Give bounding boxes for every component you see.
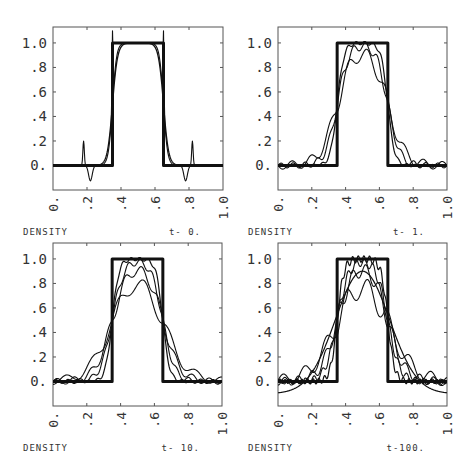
y-tick-label: .2 bbox=[30, 349, 47, 365]
curve-solution-a bbox=[53, 257, 222, 382]
x-tick-label: 0. bbox=[46, 412, 61, 428]
y-tick-label: .8 bbox=[30, 275, 47, 291]
curve-exact bbox=[53, 43, 223, 166]
x-tick-label: .2 bbox=[80, 196, 95, 212]
x-tick-label: .8 bbox=[181, 412, 196, 428]
y-tick-label: .8 bbox=[255, 275, 272, 291]
curve-exact bbox=[53, 259, 222, 382]
x-tick-label: 1.0 bbox=[440, 412, 455, 435]
curve-solution-b bbox=[278, 43, 447, 168]
x-tick-label: .2 bbox=[80, 412, 95, 428]
curve-solution-a bbox=[53, 43, 223, 166]
y-tick-label: .4 bbox=[255, 108, 272, 124]
panel-t1: 0..2.4.6.81.00..2.4.6.81.0DENSITYt- 1. bbox=[247, 27, 455, 237]
time-label: t- 10. bbox=[161, 443, 200, 453]
y-tick-label: 0. bbox=[255, 373, 272, 389]
y-tick-label: 1.0 bbox=[22, 251, 47, 267]
chart-figure: 0..2.4.6.81.00..2.4.6.81.0DENSITYt- 0. 0… bbox=[0, 0, 476, 462]
curve-solution-a bbox=[278, 256, 447, 384]
time-label: t-100. bbox=[386, 443, 425, 453]
x-tick-label: 0. bbox=[271, 412, 286, 428]
x-tick-label: .6 bbox=[148, 196, 163, 212]
y-tick-label: 0. bbox=[255, 157, 272, 173]
y-tick-label: .4 bbox=[30, 324, 47, 340]
x-axis-label: DENSITY bbox=[248, 227, 293, 237]
x-tick-label: .6 bbox=[372, 196, 387, 212]
y-tick-label: 1.0 bbox=[22, 35, 47, 51]
time-label: t- 1. bbox=[393, 227, 425, 237]
x-tick-label: .2 bbox=[305, 196, 320, 212]
x-tick-label: .4 bbox=[339, 412, 354, 428]
y-tick-label: .2 bbox=[255, 349, 272, 365]
y-tick-label: 0. bbox=[30, 157, 47, 173]
curve-solution-c bbox=[278, 49, 447, 169]
x-tick-label: .6 bbox=[147, 412, 162, 428]
x-tick-label: 1.0 bbox=[440, 196, 455, 219]
time-label: t- 0. bbox=[169, 227, 201, 237]
curve-exact bbox=[278, 43, 447, 166]
curve-solution-d bbox=[53, 280, 222, 384]
x-tick-label: 0. bbox=[46, 196, 61, 212]
y-tick-label: .6 bbox=[255, 84, 272, 100]
y-tick-label: .6 bbox=[255, 300, 272, 316]
x-tick-label: 1.0 bbox=[215, 412, 230, 435]
curve-solution-b bbox=[278, 258, 447, 384]
x-tick-label: .8 bbox=[182, 196, 197, 212]
curve-solution-d bbox=[278, 280, 447, 386]
x-tick-label: .4 bbox=[114, 196, 129, 212]
panel-t100: 0..2.4.6.81.00..2.4.6.81.0DENSITYt-100. bbox=[247, 243, 455, 453]
x-axis-label: DENSITY bbox=[23, 227, 68, 237]
y-tick-label: 0. bbox=[30, 373, 47, 389]
x-tick-label: .8 bbox=[406, 412, 421, 428]
y-tick-label: .6 bbox=[30, 84, 47, 100]
y-tick-label: .2 bbox=[30, 133, 47, 149]
x-tick-label: 0. bbox=[271, 196, 286, 212]
curve-solution-b bbox=[53, 31, 223, 181]
x-tick-label: .8 bbox=[406, 196, 421, 212]
panel-t10: 0..2.4.6.81.00..2.4.6.81.0DENSITYt- 10. bbox=[22, 243, 230, 453]
curve-exact bbox=[278, 259, 447, 382]
y-tick-label: 1.0 bbox=[247, 35, 272, 51]
y-tick-label: .8 bbox=[30, 59, 47, 75]
x-tick-label: 1.0 bbox=[216, 196, 231, 219]
y-tick-label: 1.0 bbox=[247, 251, 272, 267]
curve-solution-a bbox=[278, 41, 447, 166]
x-tick-label: .4 bbox=[114, 412, 129, 428]
y-tick-label: .8 bbox=[255, 59, 272, 75]
y-tick-label: .6 bbox=[30, 300, 47, 316]
y-tick-label: .4 bbox=[30, 108, 47, 124]
y-tick-label: .2 bbox=[255, 133, 272, 149]
panel-t0: 0..2.4.6.81.00..2.4.6.81.0DENSITYt- 0. bbox=[22, 27, 231, 237]
y-tick-label: .4 bbox=[255, 324, 272, 340]
curve-solution-b bbox=[53, 259, 222, 383]
x-tick-label: .4 bbox=[339, 196, 354, 212]
x-axis-label: DENSITY bbox=[23, 443, 68, 453]
x-tick-label: .6 bbox=[372, 412, 387, 428]
x-axis-label: DENSITY bbox=[248, 443, 293, 453]
x-tick-label: .2 bbox=[305, 412, 320, 428]
